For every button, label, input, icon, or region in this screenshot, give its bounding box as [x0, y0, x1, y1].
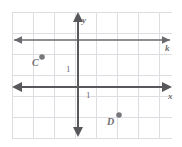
- point-dot-d: [116, 112, 122, 118]
- graph-canvas: [0, 0, 182, 147]
- line-k: [14, 36, 170, 44]
- coordinate-plane-figure: y x k 11CD: [0, 0, 182, 147]
- point-label-c: C: [32, 58, 39, 68]
- x-axis-arrow-left: [12, 82, 22, 92]
- line-k-label: k: [165, 44, 170, 53]
- x-axis: [12, 82, 172, 92]
- point-dot-c: [39, 54, 45, 60]
- point-label-d: D: [107, 117, 114, 127]
- grid-lines: [12, 12, 172, 138]
- x-axis-label: x: [168, 92, 173, 101]
- tick-label-y-unit: 1: [66, 65, 71, 74]
- y-axis-label: y: [82, 16, 86, 25]
- tick-label-x-unit: 1: [86, 91, 91, 100]
- line-k-arrow-left: [14, 36, 22, 44]
